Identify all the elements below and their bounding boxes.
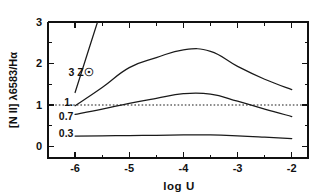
x-axis-tick-labels: -6-5-4-3-2 (70, 162, 296, 174)
y-axis-title: [N II] λ6583/Hα (7, 52, 19, 128)
curve-3-zsun (75, 7, 102, 92)
chart-canvas: -6-5-4-3-2 0123 3 Z☉1.0.70.3 log U [N II… (0, 0, 325, 195)
y-tick-label-3: 3 (36, 16, 42, 28)
curve-0-7-zsun (75, 93, 292, 117)
curve-label-03: 0.3 (59, 127, 74, 139)
x-tick-label-0: -6 (70, 162, 80, 174)
curve-label-3zsun: 3 Z☉ (69, 66, 94, 78)
x-axis-title: log U (163, 180, 195, 192)
x-tick-label-1: -5 (124, 162, 134, 174)
x-tick-label-4: -2 (287, 162, 297, 174)
curve-label-1: 1. (64, 96, 73, 108)
curve-0-3-zsun (75, 135, 292, 139)
figure-container: -6-5-4-3-2 0123 3 Z☉1.0.70.3 log U [N II… (0, 0, 325, 195)
curve-annotations: 3 Z☉1.0.70.3 (59, 66, 94, 139)
y-axis-tick-labels: 0123 (36, 16, 42, 152)
y-axis-ticks (48, 22, 308, 146)
x-tick-label-2: -4 (179, 162, 190, 174)
y-tick-label-1: 1 (36, 99, 42, 111)
y-tick-label-2: 2 (36, 57, 42, 69)
x-tick-label-3: -3 (233, 162, 243, 174)
curve-1-zsun (75, 49, 292, 106)
x-axis-ticks (75, 22, 292, 158)
curve-label-07: 0.7 (59, 110, 74, 122)
y-tick-label-0: 0 (36, 140, 42, 152)
